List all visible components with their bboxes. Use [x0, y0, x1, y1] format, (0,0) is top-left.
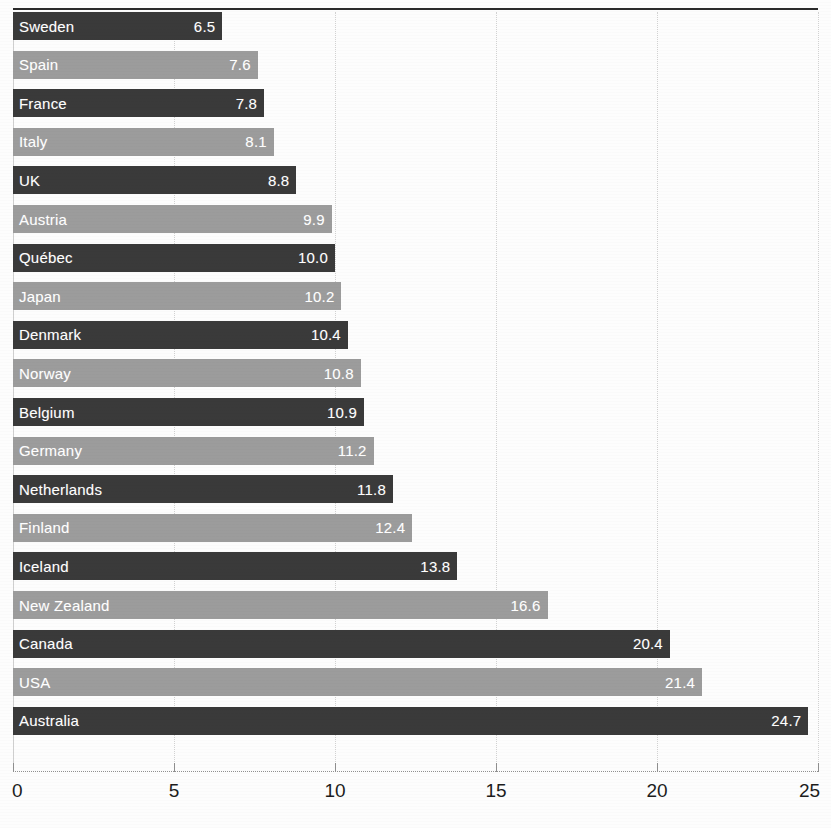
- bar-uk: UK8.8: [13, 166, 296, 194]
- bar-value-label: 11.8: [357, 482, 386, 497]
- bar-value-label: 10.0: [298, 250, 328, 265]
- bar-category-label: Germany: [19, 443, 82, 458]
- bar-italy: Italy8.1: [13, 128, 274, 156]
- gridline-5: [174, 12, 176, 772]
- bar-canada: Canada20.4: [13, 630, 670, 658]
- bar-value-label: 21.4: [665, 675, 695, 690]
- bar-category-label: Denmark: [19, 327, 81, 342]
- bar-row: Germany11.2: [13, 437, 374, 465]
- bar-row: Norway10.8: [13, 359, 361, 387]
- bar-netherlands: Netherlands11.8: [13, 475, 393, 503]
- bar-row: Belgium10.9: [13, 398, 364, 426]
- x-tick-label: 10: [324, 780, 345, 802]
- x-tick-10: [335, 763, 336, 772]
- bar-value-label: 6.5: [194, 19, 215, 34]
- bar-category-label: Japan: [19, 289, 61, 304]
- x-tick-15: [496, 763, 497, 772]
- bar-value-label: 10.8: [324, 366, 354, 381]
- bar-value-label: 11.2: [338, 443, 367, 458]
- bar-row: Japan10.2: [13, 282, 341, 310]
- bar-row: Netherlands11.8: [13, 475, 393, 503]
- bar-category-label: Canada: [19, 636, 73, 651]
- bar-austria: Austria9.9: [13, 205, 332, 233]
- x-tick-label: 25: [799, 780, 820, 802]
- bar-row: USA21.4: [13, 668, 702, 696]
- bar-row: Australia24.7: [13, 707, 808, 735]
- x-tick-label: 0: [12, 780, 23, 802]
- bar-category-label: UK: [19, 173, 40, 188]
- x-axis-line: [13, 771, 818, 772]
- bar-row: France7.8: [13, 89, 264, 117]
- bar-germany: Germany11.2: [13, 437, 374, 465]
- x-tick-25: [818, 763, 819, 772]
- bar-row: Sweden6.5: [13, 12, 222, 40]
- bar-value-label: 24.7: [771, 713, 801, 728]
- bar-category-label: Austria: [19, 212, 67, 227]
- bar-france: France7.8: [13, 89, 264, 117]
- bar-category-label: Sweden: [19, 19, 74, 34]
- bar-row: Canada20.4: [13, 630, 670, 658]
- bar-value-label: 20.4: [633, 636, 663, 651]
- bar-sweden: Sweden6.5: [13, 12, 222, 40]
- bar-category-label: Finland: [19, 520, 70, 535]
- top-border-rule: [13, 8, 818, 10]
- bar-new-zealand: New Zealand16.6: [13, 591, 548, 619]
- x-tick-0: [13, 763, 14, 772]
- bar-value-label: 10.2: [304, 289, 334, 304]
- x-tick-5: [174, 763, 175, 772]
- bar-category-label: Iceland: [19, 559, 69, 574]
- bar-category-label: Québec: [19, 250, 73, 265]
- bar-québec: Québec10.0: [13, 244, 335, 272]
- bar-row: Austria9.9: [13, 205, 332, 233]
- bar-finland: Finland12.4: [13, 514, 412, 542]
- bar-row: UK8.8: [13, 166, 296, 194]
- bar-japan: Japan10.2: [13, 282, 341, 310]
- gridline-10: [335, 12, 337, 772]
- bar-value-label: 8.1: [245, 134, 266, 149]
- bar-value-label: 7.6: [229, 57, 250, 72]
- bar-value-label: 8.8: [268, 173, 289, 188]
- bar-value-label: 9.9: [303, 212, 324, 227]
- bar-australia: Australia24.7: [13, 707, 808, 735]
- gridline-20: [657, 12, 659, 772]
- gridline-25: [818, 12, 820, 772]
- bar-category-label: Belgium: [19, 405, 75, 420]
- bar-row: Finland12.4: [13, 514, 412, 542]
- bar-category-label: France: [19, 96, 67, 111]
- bar-row: New Zealand16.6: [13, 591, 548, 619]
- bar-category-label: Italy: [19, 134, 48, 149]
- bar-iceland: Iceland13.8: [13, 552, 457, 580]
- bar-value-label: 10.9: [327, 405, 357, 420]
- bar-category-label: Norway: [19, 366, 71, 381]
- bar-denmark: Denmark10.4: [13, 321, 348, 349]
- gridline-0: [13, 12, 15, 772]
- bar-category-label: USA: [19, 675, 50, 690]
- bar-value-label: 7.8: [236, 96, 257, 111]
- bar-spain: Spain7.6: [13, 51, 258, 79]
- x-tick-label: 15: [485, 780, 506, 802]
- bar-belgium: Belgium10.9: [13, 398, 364, 426]
- bar-value-label: 12.4: [375, 520, 405, 535]
- x-tick-20: [657, 763, 658, 772]
- x-tick-label: 20: [646, 780, 667, 802]
- gridline-15: [496, 12, 498, 772]
- x-tick-label: 5: [169, 780, 180, 802]
- bar-usa: USA21.4: [13, 668, 702, 696]
- bar-norway: Norway10.8: [13, 359, 361, 387]
- chart-figure: Sweden6.5Spain7.6France7.8Italy8.1UK8.8A…: [0, 0, 831, 828]
- bar-category-label: Australia: [19, 713, 79, 728]
- bar-row: Italy8.1: [13, 128, 274, 156]
- bar-row: Spain7.6: [13, 51, 258, 79]
- bar-category-label: New Zealand: [19, 598, 110, 613]
- bar-category-label: Spain: [19, 57, 58, 72]
- bar-row: Iceland13.8: [13, 552, 457, 580]
- bar-row: Denmark10.4: [13, 321, 348, 349]
- bar-value-label: 10.4: [311, 327, 341, 342]
- plot-area: Sweden6.5Spain7.6France7.8Italy8.1UK8.8A…: [0, 12, 831, 772]
- bar-row: Québec10.0: [13, 244, 335, 272]
- bar-value-label: 13.8: [420, 559, 450, 574]
- bar-category-label: Netherlands: [19, 482, 102, 497]
- bar-value-label: 16.6: [511, 598, 541, 613]
